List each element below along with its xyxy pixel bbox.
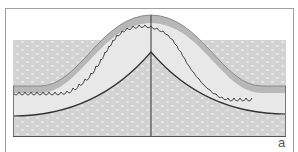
figure-label: a <box>278 136 285 149</box>
diagram-figure: a <box>0 0 298 152</box>
cross-section-drawing <box>0 0 298 152</box>
